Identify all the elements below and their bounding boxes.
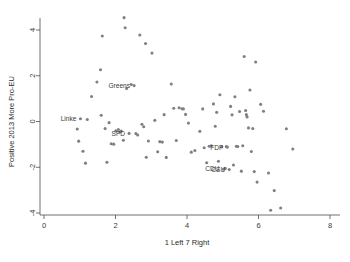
data-point — [198, 130, 201, 133]
data-point — [217, 160, 220, 163]
data-point — [291, 147, 294, 150]
data-point — [170, 82, 173, 85]
data-point — [229, 105, 232, 108]
data-point — [228, 168, 231, 171]
data-point — [279, 206, 282, 209]
x-tick-label: 6 — [256, 221, 260, 230]
scatter-plot-figure: 02468-4-2024 LinkeGreensSPDFDPCDUCSU 1 L… — [0, 0, 350, 262]
data-point — [178, 106, 181, 109]
point-label-fdp: FDP — [210, 144, 224, 151]
data-point — [81, 150, 84, 153]
y-tick-label: 2 — [28, 74, 37, 78]
data-point — [108, 121, 111, 124]
data-point — [86, 118, 89, 121]
data-point — [238, 110, 241, 113]
data-point — [153, 119, 156, 122]
data-point — [95, 80, 98, 83]
data-point — [163, 113, 166, 116]
data-point — [142, 125, 145, 128]
point-label-spd: SPD — [112, 130, 126, 137]
data-point — [76, 128, 79, 131]
data-point — [250, 150, 253, 153]
data-point — [230, 113, 233, 116]
data-point — [256, 181, 259, 184]
point-label-greens: Greens — [108, 82, 130, 89]
data-point — [205, 161, 208, 164]
x-axis-title: 1 Left 7 Right — [165, 238, 211, 247]
x-tick-label: 8 — [328, 221, 332, 230]
y-tick-label: 4 — [28, 28, 37, 32]
data-point — [99, 68, 102, 71]
data-point — [212, 102, 215, 105]
data-point — [77, 140, 80, 143]
axis-titles: 1 Left 7 RightPositive 2013 More Pro-EU — [7, 76, 210, 247]
data-point — [128, 132, 131, 135]
data-point — [262, 110, 265, 113]
data-point — [112, 143, 115, 146]
data-point — [203, 146, 206, 149]
data-point — [100, 114, 103, 117]
x-tick-label: 0 — [42, 221, 46, 230]
x-tick-label: 4 — [185, 221, 189, 230]
data-point — [90, 95, 93, 98]
data-point — [138, 33, 141, 36]
data-point — [144, 42, 147, 45]
data-point — [105, 161, 108, 164]
plot-canvas: 02468-4-2024 LinkeGreensSPDFDPCDUCSU 1 L… — [0, 0, 350, 262]
data-point — [246, 115, 249, 118]
data-point — [123, 16, 126, 19]
data-point — [190, 151, 193, 154]
y-tick-label: -4 — [28, 210, 37, 217]
data-point — [147, 139, 150, 142]
data-point — [201, 107, 204, 110]
data-point — [253, 170, 256, 173]
data-point — [136, 133, 139, 136]
data-point — [175, 139, 178, 142]
data-point — [285, 127, 288, 130]
data-point — [165, 156, 168, 159]
data-point — [273, 189, 276, 192]
data-point — [240, 170, 243, 173]
data-point — [133, 84, 136, 87]
data-point — [84, 162, 87, 165]
data-points — [76, 16, 295, 212]
data-point — [269, 209, 272, 212]
y-tick-label: 0 — [28, 119, 37, 123]
data-point — [232, 163, 235, 166]
data-point — [247, 126, 250, 129]
point-label-linke: Linke — [61, 115, 77, 122]
data-point — [226, 146, 229, 149]
data-point — [187, 122, 190, 125]
data-point — [241, 144, 244, 147]
data-point — [193, 149, 196, 152]
data-point — [218, 93, 221, 96]
data-point — [104, 127, 107, 130]
data-point — [124, 26, 127, 29]
data-point — [182, 107, 185, 110]
data-point — [243, 55, 246, 58]
data-point — [215, 111, 218, 114]
data-point — [130, 83, 133, 86]
data-point — [248, 88, 251, 91]
data-point — [145, 156, 148, 159]
y-axis-title: Positive 2013 More Pro-EU — [7, 76, 16, 167]
data-point — [172, 107, 175, 110]
data-point — [150, 52, 153, 55]
data-point — [254, 60, 257, 63]
data-point — [244, 109, 247, 112]
data-point — [184, 113, 187, 116]
axes: 02468-4-2024 — [28, 18, 340, 230]
data-point — [214, 125, 217, 128]
data-point — [251, 127, 254, 130]
data-point — [161, 141, 164, 144]
data-point — [259, 103, 262, 106]
data-point — [122, 139, 125, 142]
y-tick-label: -2 — [28, 164, 37, 171]
data-point — [140, 123, 143, 126]
data-point — [101, 34, 104, 37]
data-point — [79, 117, 82, 120]
point-label-csu: CSU — [211, 166, 225, 173]
data-point — [267, 171, 270, 174]
data-point — [236, 145, 239, 148]
data-point — [233, 95, 236, 98]
